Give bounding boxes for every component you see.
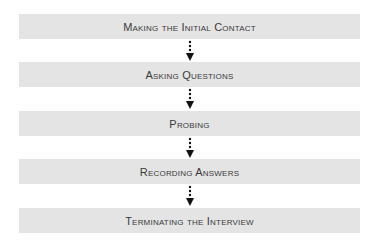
step-box-4: Recording Answers — [19, 159, 360, 184]
step-box-2: Asking Questions — [19, 62, 360, 87]
dotted-arrow-down-icon — [185, 40, 195, 62]
step-label: Making the Initial Contact — [123, 21, 256, 33]
step-box-3: Probing — [19, 111, 360, 136]
step-label: Recording Answers — [140, 166, 239, 178]
step-box-1: Making the Initial Contact — [19, 14, 360, 39]
step-label: Terminating the Interview — [125, 215, 254, 227]
step-label: Probing — [169, 118, 209, 130]
dotted-arrow-down-icon — [185, 88, 195, 110]
dotted-arrow-down-icon — [185, 137, 195, 159]
step-label: Asking Questions — [146, 69, 234, 81]
dotted-arrow-down-icon — [185, 185, 195, 207]
step-box-5: Terminating the Interview — [19, 208, 360, 233]
